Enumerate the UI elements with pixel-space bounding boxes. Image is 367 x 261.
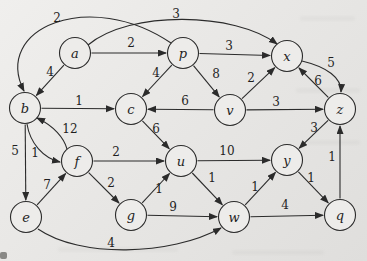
edge-e-f (37, 174, 66, 205)
edge-weight-x-z: 5 (327, 56, 335, 70)
edge-weight-q-z: 1 (328, 150, 336, 164)
edge-b-c (42, 108, 115, 109)
edge-weight-b-e: 5 (11, 144, 19, 158)
node-label-u: u (177, 154, 185, 169)
edge-p-b (18, 17, 171, 91)
edge-weight-z-x: 6 (314, 74, 322, 88)
node-label-g: g (127, 208, 135, 223)
edge-weight-e-f: 7 (43, 178, 51, 192)
edge-weight-w-q: 4 (281, 198, 289, 212)
node-label-y: y (282, 153, 291, 168)
edge-weight-v-x: 2 (247, 71, 255, 85)
edge-b-e (25, 125, 26, 201)
edge-w-q (251, 215, 324, 216)
edge-weight-b-c: 1 (75, 94, 83, 108)
edge-weight-f-g: 2 (107, 176, 115, 190)
edge-weight-b-f: 1 (31, 146, 39, 160)
edge-weight-a-x: 3 (172, 7, 180, 21)
node-label-e: e (22, 210, 30, 225)
edge-v-c (148, 109, 214, 110)
edge-weight-u-y: 10 (219, 144, 234, 158)
edge-v-z (247, 109, 324, 110)
edge-weight-f-b: 12 (62, 122, 77, 136)
node-label-v: v (226, 103, 234, 118)
edge-weight-g-w: 9 (169, 200, 177, 214)
edge-u-y (198, 160, 271, 161)
scanned-page: apxbcvzfuyegwq23324482635615112722619101… (0, 0, 367, 261)
edge-weight-v-c: 6 (181, 94, 189, 108)
edge-weight-v-z: 3 (272, 95, 280, 109)
node-label-w: w (228, 210, 239, 225)
edge-weight-a-p: 2 (127, 36, 135, 50)
edge-weight-f-u: 2 (112, 145, 120, 159)
edge-weight-y-q: 1 (307, 171, 315, 185)
edge-w-y (245, 172, 275, 205)
edge-e-w (38, 228, 221, 250)
graph-diagram: apxbcvzfuyegwq23324482635615112722619101… (0, 0, 367, 261)
edge-weight-z-y: 3 (310, 121, 318, 135)
edge-weight-p-c: 4 (152, 66, 160, 80)
edge-weight-p-v: 8 (212, 67, 220, 81)
edge-weight-w-y: 1 (251, 180, 259, 194)
edge-weight-p-x: 3 (225, 39, 233, 53)
node-label-z: z (336, 102, 344, 117)
node-label-a: a (71, 46, 79, 61)
node-label-x: x (283, 49, 291, 64)
edge-weight-g-u: 1 (155, 182, 163, 196)
edge-weight-a-b: 4 (46, 65, 54, 79)
edge-weight-e-w: 4 (107, 236, 115, 250)
edge-weight-p-b: 2 (53, 11, 61, 25)
edge-p-x (200, 54, 271, 56)
edge-weight-u-w: 1 (208, 171, 216, 185)
node-label-p: p (179, 46, 188, 61)
node-label-c: c (127, 102, 135, 117)
edge-g-w (148, 215, 218, 216)
edge-weight-c-u: 6 (152, 122, 160, 136)
node-label-b: b (21, 101, 29, 116)
node-label-q: q (336, 208, 344, 223)
